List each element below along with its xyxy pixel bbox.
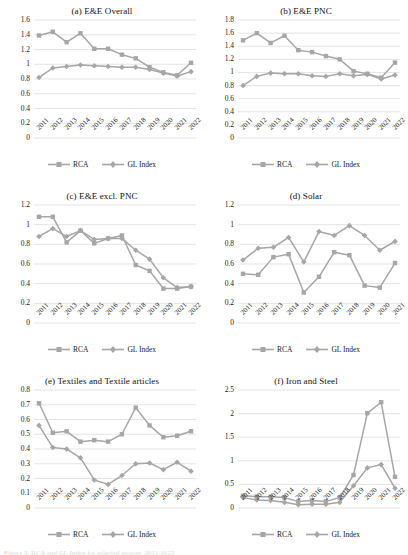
square-marker xyxy=(106,439,110,443)
diamond-marker xyxy=(268,70,274,76)
diamond-marker xyxy=(323,74,329,80)
legend-item-rca[interactable]: RCA xyxy=(48,530,88,539)
y-tick-label: 0.2 xyxy=(225,300,234,308)
x-axis-e: 2011201220132014201520162017201820192020… xyxy=(34,494,196,528)
y-tick-label: 1 xyxy=(26,61,30,69)
legend-item-rca[interactable]: RCA xyxy=(252,530,292,539)
diamond-marker xyxy=(102,160,124,169)
legend-item-gl-index[interactable]: GL Index xyxy=(102,160,156,169)
diamond-marker xyxy=(119,64,125,70)
y-tick-label: 0.2 xyxy=(225,121,234,129)
square-marker xyxy=(393,60,397,64)
y-tick-label: 0 xyxy=(26,504,30,512)
y-tick-label: 0.3 xyxy=(21,460,30,468)
y-tick-label: 1.2 xyxy=(225,56,234,64)
square-marker xyxy=(332,250,336,254)
series-line-gl-index xyxy=(39,65,191,78)
square-marker xyxy=(252,160,274,169)
legend-label: RCA xyxy=(72,345,88,354)
x-axis-d: 2011201220132014201520162017201820192020… xyxy=(238,309,400,343)
square-marker xyxy=(255,31,259,35)
y-tick-label: 0.7 xyxy=(21,401,30,409)
y-tick-label: 2.5 xyxy=(225,386,234,394)
series-line-rca xyxy=(39,217,191,289)
x-axis-f: 2011201220132014201520162017201820192020… xyxy=(238,494,400,528)
legend-item-gl-index[interactable]: GL Index xyxy=(102,530,156,539)
square-marker xyxy=(134,263,138,267)
square-marker xyxy=(268,41,272,45)
y-tick-label: 0.4 xyxy=(225,108,234,116)
y-tick-label: 1.2 xyxy=(21,201,30,209)
square-marker xyxy=(241,272,245,276)
diamond-marker xyxy=(295,71,301,77)
panel-title-f: (f) Iron and Steel xyxy=(204,376,408,386)
square-marker xyxy=(161,435,165,439)
square-marker xyxy=(51,431,55,435)
legend-item-gl-index[interactable]: GL Index xyxy=(306,530,360,539)
square-marker xyxy=(347,253,351,257)
y-tick-label: 0.8 xyxy=(225,82,234,90)
square-marker xyxy=(317,275,321,279)
legend-label: GL Index xyxy=(330,160,360,169)
y-tick-label: 1 xyxy=(230,221,234,229)
panel-title-c: (c) E&E excl. PNC xyxy=(0,191,204,201)
legend-item-gl-index[interactable]: GL Index xyxy=(102,345,156,354)
legend-f: RCAGL Index xyxy=(204,530,408,539)
y-tick-label: 1 xyxy=(230,69,234,77)
diamond-marker xyxy=(147,460,153,466)
y-tick-label: 0.6 xyxy=(21,260,30,268)
square-marker xyxy=(48,160,70,169)
square-marker xyxy=(161,286,165,290)
diamond-marker xyxy=(309,73,315,79)
y-axis-b: 00.20.40.60.811.21.41.61.8 xyxy=(204,20,234,138)
x-axis-c: 2011201220132014201520162017201820192020… xyxy=(34,309,196,343)
y-tick-label: 0 xyxy=(230,319,234,327)
y-axis-f: 00.511.522.5 xyxy=(204,390,234,508)
square-marker xyxy=(241,38,245,42)
series-line-rca xyxy=(243,252,395,292)
y-tick-label: 2 xyxy=(230,410,234,418)
legend-item-rca[interactable]: RCA xyxy=(48,345,88,354)
square-marker xyxy=(362,283,366,287)
y-axis-d: 00.20.40.60.811.2 xyxy=(204,205,234,323)
square-marker xyxy=(393,261,397,265)
square-marker xyxy=(256,273,260,277)
square-marker xyxy=(51,215,55,219)
square-marker xyxy=(64,240,68,244)
y-tick-label: 0.4 xyxy=(225,280,234,288)
legend-item-rca[interactable]: RCA xyxy=(252,160,292,169)
series-line-rca xyxy=(39,32,191,76)
legend-item-gl-index[interactable]: GL Index xyxy=(306,345,360,354)
diamond-marker xyxy=(161,467,167,473)
square-marker xyxy=(51,30,55,34)
square-marker xyxy=(37,401,41,405)
square-marker xyxy=(189,429,193,433)
y-tick-label: 0.8 xyxy=(21,75,30,83)
square-marker xyxy=(351,69,355,73)
diamond-marker xyxy=(316,229,322,235)
legend-label: GL Index xyxy=(330,345,360,354)
square-marker xyxy=(393,475,397,479)
y-tick-label: 0.1 xyxy=(21,490,30,498)
x-axis-b: 2011201220132014201520162017201820192020… xyxy=(238,124,400,158)
square-marker xyxy=(282,34,286,38)
square-marker xyxy=(120,432,124,436)
y-tick-label: 0.4 xyxy=(21,280,30,288)
series-line-rca xyxy=(39,403,191,441)
legend-item-gl-index[interactable]: GL Index xyxy=(306,160,360,169)
diamond-marker xyxy=(337,71,343,77)
diamond-marker xyxy=(282,71,288,77)
square-marker xyxy=(78,31,82,35)
square-marker xyxy=(64,40,68,44)
y-tick-label: 1.2 xyxy=(21,46,30,54)
legend-item-rca[interactable]: RCA xyxy=(252,345,292,354)
y-tick-label: 1.4 xyxy=(21,31,30,39)
legend-item-rca[interactable]: RCA xyxy=(48,160,88,169)
y-tick-label: 0.8 xyxy=(21,241,30,249)
square-marker xyxy=(324,54,328,58)
legend-b: RCAGL Index xyxy=(204,160,408,169)
y-tick-label: 0.2 xyxy=(21,300,30,308)
square-marker xyxy=(64,429,68,433)
legend-d: RCAGL Index xyxy=(204,345,408,354)
y-tick-label: 1.6 xyxy=(21,16,30,24)
